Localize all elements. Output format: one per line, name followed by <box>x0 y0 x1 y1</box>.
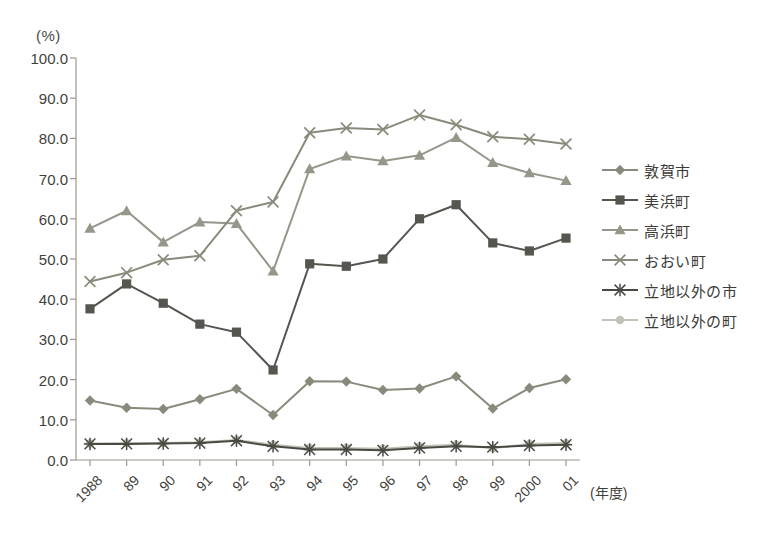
marker-asterisk <box>303 443 315 455</box>
marker-asterisk <box>194 437 206 449</box>
legend-key-square-icon <box>600 191 640 209</box>
marker-diamond <box>524 383 534 393</box>
marker-square <box>525 246 534 255</box>
marker-asterisk <box>340 443 352 455</box>
marker-square <box>268 365 277 374</box>
marker-triangle <box>414 150 425 160</box>
marker-asterisk <box>450 440 462 452</box>
y-tick-label: 100.0 <box>6 50 68 67</box>
marker-square <box>378 254 387 263</box>
marker-triangle <box>84 223 95 233</box>
marker-square <box>85 304 94 313</box>
x-axis-caption: (年度) <box>590 482 627 502</box>
axis-lines <box>76 58 580 460</box>
marker-asterisk <box>377 444 389 456</box>
marker-asterisk <box>267 440 279 452</box>
marker-diamond <box>195 394 205 404</box>
legend-label: 立地以外の市 <box>640 280 737 301</box>
y-tick-label: 50.0 <box>6 251 68 268</box>
series-5 <box>84 434 572 456</box>
y-axis-unit-label: (%) <box>36 27 61 44</box>
y-tick-label: 30.0 <box>6 331 68 348</box>
marker-diamond <box>85 395 95 405</box>
marker-asterisk <box>487 441 499 453</box>
marker-square <box>122 279 131 288</box>
marker-asterisk <box>157 437 169 449</box>
legend-label: 敦賀市 <box>640 160 691 181</box>
marker-diamond <box>341 376 351 386</box>
series-3 <box>84 132 571 275</box>
legend-key-circle-icon <box>600 311 640 329</box>
marker-square <box>561 233 570 242</box>
y-tick-label: 20.0 <box>6 371 68 388</box>
legend-item-2[interactable]: 美浜町 <box>600 190 737 210</box>
series-2 <box>85 200 570 374</box>
marker-asterisk <box>413 442 425 454</box>
y-tick-label: 80.0 <box>6 130 68 147</box>
marker-asterisk <box>230 434 242 446</box>
marker-triangle <box>341 150 352 160</box>
legend-key-x-icon <box>600 251 640 269</box>
legend-item-4[interactable]: おおい町 <box>600 250 737 270</box>
marker-diamond <box>414 383 424 393</box>
legend-key-asterisk-icon <box>600 281 640 299</box>
marker-asterisk <box>560 439 572 451</box>
marker-square <box>195 320 204 329</box>
legend-key-diamond-icon <box>600 161 640 179</box>
y-tick-label: 90.0 <box>6 90 68 107</box>
marker-square <box>415 214 424 223</box>
marker-square <box>452 200 461 209</box>
marker-diamond <box>561 374 571 384</box>
marker-asterisk <box>120 438 132 450</box>
marker-square <box>615 195 624 204</box>
chart-container: (%) 100.090.080.070.060.050.040.030.020.… <box>0 0 774 542</box>
marker-square <box>159 299 168 308</box>
legend-item-5[interactable]: 立地以外の市 <box>600 280 737 300</box>
y-tick-label: 0.0 <box>6 452 68 469</box>
legend-label: 立地以外の町 <box>640 310 737 331</box>
marker-square <box>488 238 497 247</box>
legend-key-triangle-icon <box>600 221 640 239</box>
legend-item-1[interactable]: 敦賀市 <box>600 160 737 180</box>
marker-asterisk <box>614 284 626 296</box>
legend-label: 美浜町 <box>640 190 691 211</box>
marker-square <box>232 328 241 337</box>
marker-diamond <box>378 385 388 395</box>
chart-legend: 敦賀市美浜町高浜町おおい町立地以外の市立地以外の町 <box>600 160 737 330</box>
marker-triangle <box>121 205 132 215</box>
marker-asterisk <box>523 439 535 451</box>
y-tick-label: 60.0 <box>6 210 68 227</box>
y-tick-label: 10.0 <box>6 411 68 428</box>
marker-triangle <box>487 157 498 167</box>
y-tick-label: 40.0 <box>6 291 68 308</box>
series-4 <box>85 110 572 287</box>
marker-square <box>342 262 351 271</box>
marker-diamond <box>158 404 168 414</box>
marker-asterisk <box>84 438 96 450</box>
marker-diamond <box>615 165 625 175</box>
marker-square <box>305 259 314 268</box>
y-axis-ticks <box>70 58 76 460</box>
x-axis-ticks <box>90 460 566 466</box>
y-tick-label: 70.0 <box>6 170 68 187</box>
marker-circle <box>616 316 624 324</box>
marker-diamond <box>121 403 131 413</box>
series-1 <box>85 371 571 420</box>
legend-item-3[interactable]: 高浜町 <box>600 220 737 240</box>
marker-triangle <box>451 132 462 142</box>
legend-item-6[interactable]: 立地以外の町 <box>600 310 737 330</box>
legend-label: おおい町 <box>640 250 706 271</box>
legend-label: 高浜町 <box>640 220 691 241</box>
